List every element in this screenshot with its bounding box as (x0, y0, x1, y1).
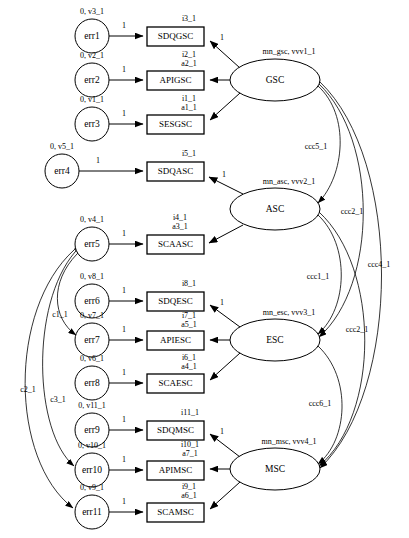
indicator-sdqmsc[interactable]: SDQMSC i11_1 1 (147, 408, 224, 440)
error-node-err4[interactable]: err4 0, v5_1 1 (45, 142, 100, 188)
error-param-label: 0, v3_1 (80, 7, 104, 16)
sem-path-diagram: err1 0, v3_1 1 err2 0, v2_1 1 err3 0, v1… (0, 0, 409, 538)
error-param-label: 0, v6_1 (80, 354, 104, 363)
error-path-label: 1 (122, 455, 126, 464)
fixed-loading-label: 1 (220, 427, 224, 436)
indicator-intercept-label: i7_1 (182, 311, 196, 320)
indicator-intercept-label: i10_1 (181, 440, 199, 449)
error-param-label: 0, v7_1 (80, 311, 104, 320)
error-node-err1[interactable]: err1 0, v3_1 1 (75, 7, 126, 53)
indicator-scaesc[interactable]: SCAESC i6_1 a4_1 (147, 353, 204, 393)
indicator-apigsc[interactable]: APIGSC i2_1 a2_1 (147, 50, 204, 90)
loading-arrows (209, 41, 243, 509)
indicator-label: SDQASC (158, 166, 194, 176)
error-nodes: err1 0, v3_1 1 err2 0, v2_1 1 err3 0, v1… (45, 7, 126, 529)
error-path-label: 1 (122, 286, 126, 295)
indicator-label: SDQGSC (158, 31, 194, 41)
indicator-loading-label: a6_1 (181, 491, 197, 500)
loading-arrow-esc-sdqesc (210, 305, 240, 327)
covariance-label-ccc4-1: ccc4_1 (368, 260, 391, 269)
indicator-intercept-label: i8_1 (182, 279, 196, 288)
error-param-label: 0, v10_1 (78, 441, 106, 450)
covariance-path-asc-msc (319, 212, 365, 466)
error-node-err2[interactable]: err2 0, v2_1 1 (75, 51, 126, 97)
loading-arrow-esc-scaesc (210, 353, 240, 380)
indicator-sdqasc[interactable]: SDQASC i5_1 1 (147, 149, 226, 181)
indicator-label: SDQESC (158, 296, 193, 306)
error-param-label: 0, v9_1 (80, 483, 104, 492)
indicator-apiesc[interactable]: APIESC i7_1 a5_1 (147, 311, 204, 350)
loading-arrow-asc-sdqasc (209, 177, 243, 194)
covariance-label-c1-1: c1_1 (52, 310, 68, 319)
error-label: err8 (84, 378, 100, 388)
latent-factor-msc[interactable]: MSC mn_msc, vvv4_1 (230, 437, 320, 490)
error-path-label: 1 (96, 156, 100, 165)
error-node-err8[interactable]: err8 0, v6_1 1 (75, 354, 126, 400)
indicator-label: APIGSC (159, 75, 191, 85)
covariance-path-err5-err11 (25, 250, 74, 508)
indicator-loading-label: a5_1 (181, 320, 197, 329)
error-node-err5[interactable]: err5 0, v4_1 1 (75, 215, 126, 261)
factor-param-label: mn_esc, vvv3_1 (263, 308, 315, 317)
error-path-label: 1 (122, 65, 126, 74)
fixed-loading-label: 1 (220, 33, 224, 42)
error-label: err9 (84, 425, 100, 435)
diagram-canvas: err1 0, v3_1 1 err2 0, v2_1 1 err3 0, v1… (0, 0, 409, 538)
error-label: err1 (84, 31, 100, 41)
indicator-intercept-label: i6_1 (182, 353, 196, 362)
error-path-label: 1 (122, 21, 126, 30)
error-label: err7 (84, 335, 100, 345)
factor-label: ASC (266, 204, 284, 214)
covariance-label-ccc2-1-lower: ccc2_1 (346, 325, 369, 334)
indicator-loading-label: a3_1 (172, 222, 188, 231)
error-node-err7[interactable]: err7 0, v7_1 1 (75, 311, 126, 357)
factor-label: MSC (265, 464, 285, 474)
latent-factor-asc[interactable]: ASC mn_asc, vvv2_1 (230, 177, 320, 230)
error-node-err11[interactable]: err11 0, v9_1 1 (75, 483, 126, 529)
covariance-label-ccc1-1: ccc1_1 (307, 272, 330, 281)
error-covariance-curves (25, 250, 77, 508)
indicator-loading-label: a1_1 (181, 103, 197, 112)
error-label: err5 (84, 239, 100, 249)
error-path-label: 1 (122, 368, 126, 377)
indicator-label: APIESC (160, 335, 191, 345)
indicator-intercept-label: i4_1 (173, 213, 187, 222)
covariance-label-ccc6-1: ccc6_1 (309, 399, 332, 408)
error-label: err10 (82, 465, 102, 475)
indicator-intercept-label: i1_1 (182, 94, 196, 103)
indicator-intercept-label: i5_1 (182, 149, 196, 158)
indicator-scamsc[interactable]: SCAMSC i9_1 a6_1 (147, 482, 204, 522)
loading-arrow-msc-sdqmsc (210, 434, 240, 457)
error-label: err3 (84, 119, 100, 129)
factor-label: ESC (266, 335, 283, 345)
error-param-label: 0, v8_1 (80, 272, 104, 281)
indicator-label: SCAMSC (157, 507, 194, 517)
covariance-label-ccc2-1-upper: ccc2_1 (341, 207, 364, 216)
indicator-sesgsc[interactable]: SESGSC i1_1 a1_1 (147, 94, 204, 134)
latent-factor-nodes: GSC mn_gsc, vvv1_1 ASC mn_asc, vvv2_1 ES… (230, 47, 320, 490)
fixed-loading-label: 1 (220, 298, 224, 307)
error-label: err2 (84, 75, 100, 85)
indicator-loading-label: a4_1 (181, 362, 197, 371)
factor-label: GSC (266, 75, 284, 85)
error-node-err10[interactable]: err10 0, v10_1 1 (75, 441, 126, 487)
error-path-label: 1 (122, 325, 126, 334)
indicator-boxes: SDQGSC i3_1 1 APIGSC i2_1 a2_1 SESGSC i1… (147, 14, 226, 522)
loading-arrow-gsc-sdqgsc (210, 41, 240, 68)
error-param-label: 0, v5_1 (50, 142, 74, 151)
indicator-loading-label: a2_1 (181, 59, 197, 68)
covariance-label-c2-1: c2_1 (20, 385, 36, 394)
indicator-sdqgsc[interactable]: SDQGSC i3_1 1 (147, 14, 224, 46)
loading-arrow-msc-scamsc (210, 482, 240, 509)
latent-factor-esc[interactable]: ESC mn_esc, vvv3_1 (230, 308, 320, 361)
error-label: err4 (54, 166, 70, 176)
factor-param-label: mn_msc, vvv4_1 (261, 437, 316, 446)
covariance-path-err5-err7 (57, 254, 77, 335)
latent-factor-gsc[interactable]: GSC mn_gsc, vvv1_1 (230, 47, 320, 101)
indicator-scaasc[interactable]: SCAASC i4_1 a3_1 (147, 213, 204, 254)
error-node-err3[interactable]: err3 0, v1_1 1 (75, 95, 126, 141)
indicator-label: APIMSC (159, 465, 193, 475)
indicator-sdqesc[interactable]: SDQESC i8_1 1 (147, 279, 224, 311)
error-param-label: 0, v11_1 (78, 401, 106, 410)
indicator-apimsc[interactable]: APIMSC i10_1 a7_1 (147, 440, 204, 480)
